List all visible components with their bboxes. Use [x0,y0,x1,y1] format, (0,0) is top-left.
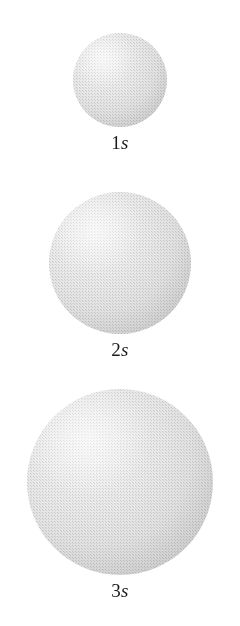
orbital-sphere-2s-wrapper [49,192,191,334]
orbital-subshell-letter-2s: s [121,339,129,360]
orbital-subshell-letter-1s: s [121,132,129,153]
orbital-label-3s: 3s [111,581,128,600]
sphere-highlight-2s [49,192,191,334]
orbital-shell-number-2s: 2 [111,339,121,360]
orbital-group-1s: 1s [0,33,240,152]
orbital-subshell-letter-3s: s [121,580,129,601]
orbital-shell-number-3s: 3 [111,580,121,601]
orbital-group-3s: 3s [0,389,240,600]
orbital-sphere-3s [27,389,213,575]
orbital-label-1s: 1s [111,133,128,152]
orbital-sphere-2s [49,192,191,334]
orbital-sphere-3s-wrapper [27,389,213,575]
sphere-highlight-1s [73,33,167,127]
orbital-sphere-1s [73,33,167,127]
orbital-sphere-1s-wrapper [73,33,167,127]
orbital-size-figure: 1s 2s 3s [0,0,240,626]
orbital-group-2s: 2s [0,192,240,359]
sphere-highlight-3s [27,389,213,575]
orbital-shell-number-1s: 1 [111,132,121,153]
orbital-label-2s: 2s [111,340,128,359]
